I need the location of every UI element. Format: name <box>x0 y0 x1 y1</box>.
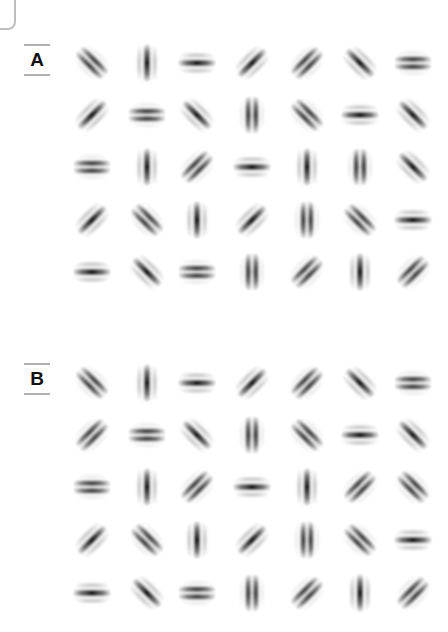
label-rule-bottom <box>24 393 50 395</box>
gabor-patch-icon <box>337 249 383 295</box>
gabor-patch-icon <box>124 570 170 616</box>
gabor-patch-icon <box>390 517 436 563</box>
gabor-patch-icon <box>124 412 170 458</box>
gabor-patch-icon <box>69 412 115 458</box>
gabor-patch-icon <box>124 360 170 406</box>
gabor-patch-icon <box>337 570 383 616</box>
gabor-patch-icon <box>284 464 330 510</box>
gabor-patch-icon <box>390 570 436 616</box>
gabor-patch-icon <box>229 360 275 406</box>
gabor-patch-icon <box>69 464 115 510</box>
gabor-patch-icon <box>229 570 275 616</box>
gabor-patch-icon <box>337 412 383 458</box>
gabor-patch-icon <box>284 144 330 190</box>
gabor-patch-icon <box>390 249 436 295</box>
gabor-patch-icon <box>390 92 436 138</box>
gabor-patch-icon <box>284 249 330 295</box>
label-rule-top <box>24 44 50 46</box>
panel-label-a: A <box>24 44 50 76</box>
panel-letter: A <box>24 48 50 72</box>
gabor-patch-icon <box>390 197 436 243</box>
gabor-patch-icon <box>229 249 275 295</box>
gabor-patch-icon <box>124 92 170 138</box>
gabor-patch-icon <box>69 360 115 406</box>
gabor-patch-icon <box>69 40 115 86</box>
gabor-patch-icon <box>124 144 170 190</box>
gabor-patch-icon <box>69 249 115 295</box>
gabor-patch-icon <box>229 197 275 243</box>
panel-label-b: B <box>24 363 50 395</box>
gabor-patch-icon <box>229 464 275 510</box>
gabor-patch-icon <box>174 40 220 86</box>
gabor-patch-icon <box>284 197 330 243</box>
gabor-patch-icon <box>284 92 330 138</box>
gabor-patch-icon <box>284 570 330 616</box>
gabor-patch-icon <box>174 464 220 510</box>
gabor-patch-icon <box>69 92 115 138</box>
gabor-patch-icon <box>229 144 275 190</box>
gabor-patch-icon <box>390 360 436 406</box>
gabor-patch-icon <box>174 197 220 243</box>
gabor-patch-icon <box>229 517 275 563</box>
gabor-patch-icon <box>337 464 383 510</box>
gabor-patch-icon <box>229 92 275 138</box>
gabor-patch-icon <box>390 144 436 190</box>
gabor-patch-icon <box>284 412 330 458</box>
gabor-patch-icon <box>337 197 383 243</box>
gabor-patch-icon <box>284 40 330 86</box>
gabor-patch-icon <box>337 517 383 563</box>
gabor-patch-icon <box>69 517 115 563</box>
gabor-patch-icon <box>124 464 170 510</box>
gabor-patch-icon <box>69 570 115 616</box>
gabor-patch-icon <box>229 412 275 458</box>
gabor-patch-icon <box>124 249 170 295</box>
gabor-patch-icon <box>69 197 115 243</box>
gabor-patch-icon <box>284 360 330 406</box>
gabor-patch-icon <box>174 92 220 138</box>
gabor-patch-icon <box>174 249 220 295</box>
partial-frame-corner <box>0 0 16 30</box>
gabor-patch-icon <box>337 144 383 190</box>
gabor-patch-icon <box>174 570 220 616</box>
gabor-patch-icon <box>337 92 383 138</box>
gabor-patch-icon <box>174 360 220 406</box>
gabor-patch-icon <box>229 40 275 86</box>
gabor-patch-icon <box>337 360 383 406</box>
gabor-patch-icon <box>337 40 383 86</box>
gabor-patch-icon <box>390 464 436 510</box>
gabor-patch-icon <box>390 412 436 458</box>
gabor-patch-icon <box>174 144 220 190</box>
gabor-patch-icon <box>69 144 115 190</box>
label-rule-top <box>24 363 50 365</box>
gabor-patch-icon <box>284 517 330 563</box>
gabor-patch-icon <box>390 40 436 86</box>
gabor-patch-icon <box>174 412 220 458</box>
gabor-patch-icon <box>174 517 220 563</box>
gabor-patch-icon <box>124 40 170 86</box>
label-rule-bottom <box>24 74 50 76</box>
gabor-patch-icon <box>124 197 170 243</box>
panel-letter: B <box>24 367 50 391</box>
gabor-patch-icon <box>124 517 170 563</box>
